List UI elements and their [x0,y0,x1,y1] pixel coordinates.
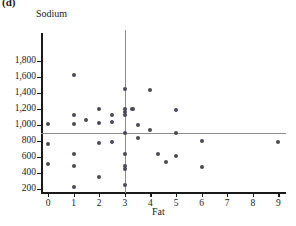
x-tick-label: 4 [140,198,160,208]
x-tick-label: 9 [268,198,288,208]
x-tick [253,193,254,197]
x-tick [48,193,49,197]
scatter-plot: (d) Sodium Fat 2004006008001,0001,2001,4… [0,0,296,226]
y-tick-label: 1,000 [2,119,36,129]
x-tick [278,193,279,197]
data-point [97,107,101,111]
x-tick-label: 6 [192,198,212,208]
x-tick [125,193,126,197]
panel-label: (d) [2,0,15,8]
data-point [123,152,127,156]
y-tick-label: 400 [2,167,36,177]
data-point [97,175,101,179]
data-point [123,167,127,171]
data-point [174,108,178,112]
y-tick [37,109,41,110]
data-point [136,123,140,127]
y-tick [37,77,41,78]
data-point [123,183,127,187]
x-tick-label: 1 [64,198,84,208]
y-tick [37,125,41,126]
data-point [276,140,280,144]
data-point [72,185,76,189]
y-tick [37,61,41,62]
horizontal-reference-line [41,133,286,134]
data-point [84,118,88,122]
x-tick-label: 3 [115,198,135,208]
y-axis-line [41,33,43,193]
data-point [72,73,76,77]
y-tick-label: 800 [2,135,36,145]
data-point [174,131,178,135]
data-point [97,121,101,125]
x-tick [202,193,203,197]
y-tick-label: 200 [2,183,36,193]
y-tick-label: 600 [2,151,36,161]
data-point [72,164,76,168]
data-point [46,162,50,166]
data-point [110,113,114,117]
y-tick-label: 1,400 [2,87,36,97]
x-tick-label: 0 [38,198,58,208]
data-point [130,107,134,111]
data-point [110,140,114,144]
data-point [97,141,101,145]
x-axis-line [41,192,286,194]
x-tick [227,193,228,197]
y-tick-label: 1,200 [2,103,36,113]
x-tick [176,193,177,197]
data-point [136,136,140,140]
data-point [72,113,76,117]
data-point [148,88,152,92]
y-tick-label: 1,800 [2,55,36,65]
data-point [200,165,204,169]
x-tick-label: 5 [166,198,186,208]
data-point [200,139,204,143]
data-point [123,87,127,91]
x-tick-label: 7 [217,198,237,208]
data-point [123,113,127,117]
x-tick-label: 8 [243,198,263,208]
x-tick [99,193,100,197]
data-point [46,122,50,126]
data-point [72,152,76,156]
x-tick-label: 2 [89,198,109,208]
data-point [110,120,114,124]
y-tick [37,141,41,142]
data-point [123,131,127,135]
data-point [164,160,168,164]
y-tick-label: 1,600 [2,71,36,81]
x-tick [74,193,75,197]
x-tick [150,193,151,197]
y-tick [37,173,41,174]
data-point [156,152,160,156]
y-tick [37,189,41,190]
data-point [72,122,76,126]
y-axis-title: Sodium [36,8,67,19]
y-tick [37,157,41,158]
data-point [46,142,50,146]
data-point [174,154,178,158]
y-tick [37,93,41,94]
data-point [148,128,152,132]
